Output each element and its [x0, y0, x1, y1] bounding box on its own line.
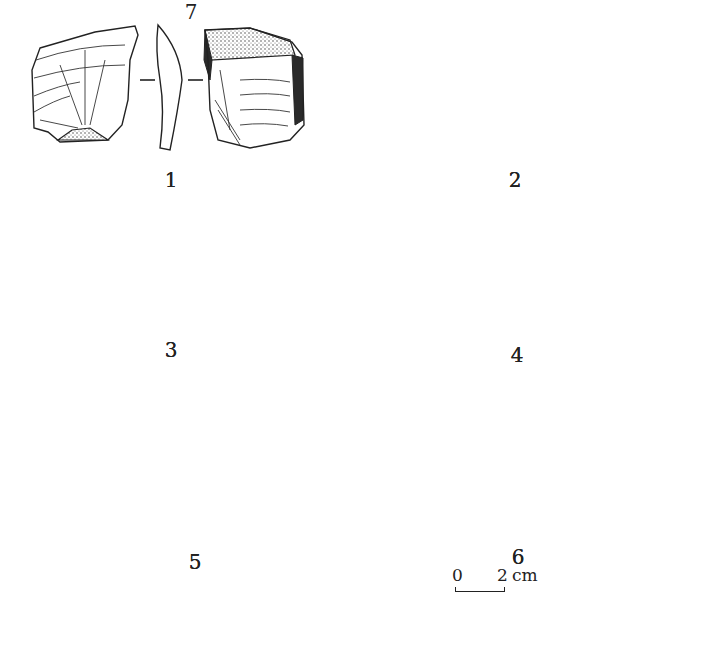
- scale-bar: 0 2 cm: [452, 565, 572, 605]
- artifact-drawings: [0, 0, 703, 669]
- scale-unit: cm: [512, 565, 538, 585]
- artifact-5-number: 5: [189, 550, 202, 574]
- artifact-3-number: 3: [165, 338, 178, 362]
- figure: 1 2 3 4: [0, 0, 703, 669]
- artifact-7-label: 7: [185, 0, 198, 24]
- scale-start: 0: [452, 565, 463, 585]
- scale-end: 2: [497, 565, 508, 585]
- artifact-1: [32, 25, 304, 150]
- scale-line: [455, 587, 505, 592]
- artifact-1-number: 1: [165, 168, 178, 192]
- artifact-4-number: 4: [511, 343, 524, 367]
- artifact-2-number: 2: [509, 168, 522, 192]
